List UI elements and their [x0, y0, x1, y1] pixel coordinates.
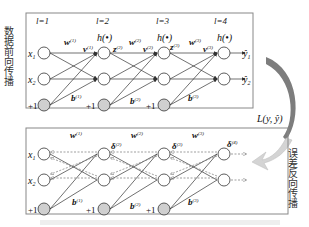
- neural-network-diagram: l=1 l=2 l=3 l=4 h(•) h(•) h(•) x1 x2 +1 …: [0, 0, 309, 227]
- bnode-bias-3: [158, 203, 170, 215]
- node-h2-2: [98, 73, 110, 85]
- activation-label-4: h(•): [217, 32, 233, 44]
- bias-weight-b2: b(2): [130, 96, 141, 106]
- bnode-h2-1: [98, 148, 110, 160]
- backward-side-label: 误差反向传播: [287, 148, 298, 209]
- bweight-w3: w(3): [192, 130, 204, 140]
- bias-label-3: +1: [146, 101, 156, 111]
- node-h3-1: [158, 47, 170, 59]
- bias-label-2: +1: [86, 101, 96, 111]
- bnode-bias-1: [38, 203, 50, 215]
- node-bias-1: [38, 99, 50, 111]
- v-label-1: v(1): [83, 44, 93, 54]
- node-bias-2: [98, 99, 110, 111]
- bnode-h2-2: [98, 174, 110, 186]
- v-label-2: v(2): [143, 44, 153, 54]
- bias-weight-b3: b(3): [188, 93, 199, 103]
- activation-label-2: h(•): [97, 32, 113, 44]
- bnode-x1: [38, 148, 50, 160]
- weight-w2: w(2): [129, 37, 141, 47]
- delta-3: δ(3): [172, 141, 183, 151]
- bnode-h3-2: [158, 174, 170, 186]
- delta-2: δ(2): [111, 141, 122, 151]
- bnode-out-2: [218, 174, 230, 186]
- bbias-label-1: +1: [28, 205, 38, 215]
- layer-label-1: l=1: [36, 16, 49, 26]
- weight-w3: w(3): [189, 37, 201, 47]
- forward-panel: l=1 l=2 l=3 l=4 h(•) h(•) h(•) x1 x2 +1 …: [26, 13, 253, 111]
- backward-dashed-connections: [51, 152, 246, 180]
- weight-w1: w(1): [64, 37, 76, 47]
- forward-side-label: 数据前向传播: [3, 25, 14, 87]
- binput-x1: x1: [27, 149, 35, 161]
- input-x1: x1: [27, 48, 35, 60]
- delta-4: δ(4): [227, 139, 238, 149]
- loss-label: L(y, ŷ): [256, 113, 283, 125]
- bbias-weight-b3: b(3): [188, 197, 199, 207]
- layer-label-3: l=3: [156, 16, 170, 26]
- z-label-3: z(3): [169, 42, 180, 52]
- node-bias-3: [158, 99, 170, 111]
- node-x1: [38, 47, 50, 59]
- bbias-label-3: +1: [146, 205, 156, 215]
- backward-panel: x1 x2 +1 +1 +1 w(1) w(2) w(3) δ(2) δ(3) …: [26, 128, 288, 215]
- bnode-x2: [38, 174, 50, 186]
- node-h2-1: [98, 47, 110, 59]
- bnode-h3-1: [158, 148, 170, 160]
- layer-label-4: l=4: [214, 16, 228, 26]
- node-out-2: [218, 73, 230, 85]
- node-out-1: [218, 47, 230, 59]
- node-h3-2: [158, 73, 170, 85]
- output-y2: ŷ2: [242, 74, 250, 86]
- faint-caption: [40, 220, 280, 225]
- bweight-w2: w(2): [131, 130, 143, 140]
- bnode-bias-2: [98, 203, 110, 215]
- bias-weight-b1: b(1): [71, 93, 82, 103]
- bias-label-1: +1: [28, 101, 38, 111]
- v-label-3: v(3): [203, 44, 213, 54]
- bnode-out-1: [218, 148, 230, 160]
- output-y1: ŷ1: [242, 48, 250, 60]
- input-x2: x2: [27, 74, 35, 86]
- bweight-w1: w(1): [70, 130, 82, 140]
- z-label-2: z(2): [112, 44, 123, 54]
- layer-label-2: l=2: [96, 16, 110, 26]
- node-x2: [38, 73, 50, 85]
- bbias-label-2: +1: [86, 205, 96, 215]
- bbias-weight-b2: b(2): [130, 201, 141, 211]
- bbias-weight-b1: b(1): [72, 197, 83, 207]
- binput-x2: x2: [27, 175, 35, 187]
